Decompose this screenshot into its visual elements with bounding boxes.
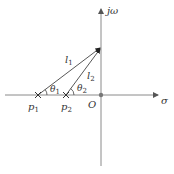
- angle-arc-theta1: [45, 90, 47, 95]
- pole-zero-diagram: jω σ O p1 p2 l1 l2 θ1 θ2: [0, 0, 174, 174]
- pole-p2-label: p2: [61, 101, 72, 114]
- vector-l1: [38, 48, 100, 95]
- angle-arc-theta2: [71, 89, 74, 95]
- angle-theta2-label: θ2: [77, 83, 87, 95]
- imag-axis-label: jω: [105, 5, 118, 16]
- pole-p1-label: p1: [28, 101, 39, 114]
- vector-l1-label: l1: [65, 54, 73, 67]
- vector-l2-label: l2: [87, 70, 95, 83]
- origin-dot: [99, 93, 103, 97]
- angle-theta1-label: θ1: [50, 84, 60, 96]
- origin-label: O: [88, 99, 96, 110]
- real-axis-label: σ: [161, 95, 169, 106]
